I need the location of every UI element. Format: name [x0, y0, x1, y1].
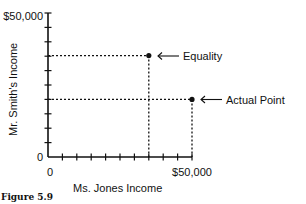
y-axis-title: Mr. Smith's Income — [7, 43, 19, 136]
equality-annotation: Equality — [183, 50, 223, 62]
equality-arrow-icon — [158, 53, 179, 60]
actual-point — [189, 97, 194, 102]
x-axis-title: Ms. Jones Income — [73, 182, 162, 194]
y-tick-zero-label: 0 — [37, 151, 43, 163]
actual-point-annotation: Actual Point — [226, 94, 285, 106]
actual-arrow-icon — [201, 96, 222, 103]
equality-guides — [48, 56, 149, 157]
equality-point — [146, 53, 151, 58]
x-tick-right-label: $50,000 — [172, 166, 212, 178]
figure-caption: Figure 5.9 — [1, 192, 53, 202]
income-chart: $50,000 0 0 $50,000 Ms. Jones Income Mr.… — [0, 0, 306, 204]
y-tick-top-label: $50,000 — [3, 10, 43, 22]
axis-ticks — [45, 13, 193, 161]
actual-guides — [48, 99, 192, 157]
x-tick-zero-label: 0 — [47, 166, 53, 178]
